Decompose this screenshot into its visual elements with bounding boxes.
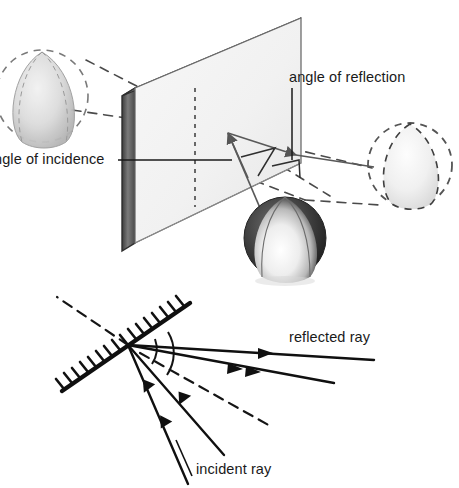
label-incident-ray: incident ray	[196, 462, 271, 477]
label-angle-of-reflection: angle of reflection	[289, 70, 405, 85]
label-reflected-ray: reflected ray	[289, 330, 370, 345]
real-ball-shadow	[255, 276, 315, 286]
mirror-side-face	[122, 88, 135, 251]
label-angle-of-incidence: ngle of incidence	[0, 152, 105, 167]
